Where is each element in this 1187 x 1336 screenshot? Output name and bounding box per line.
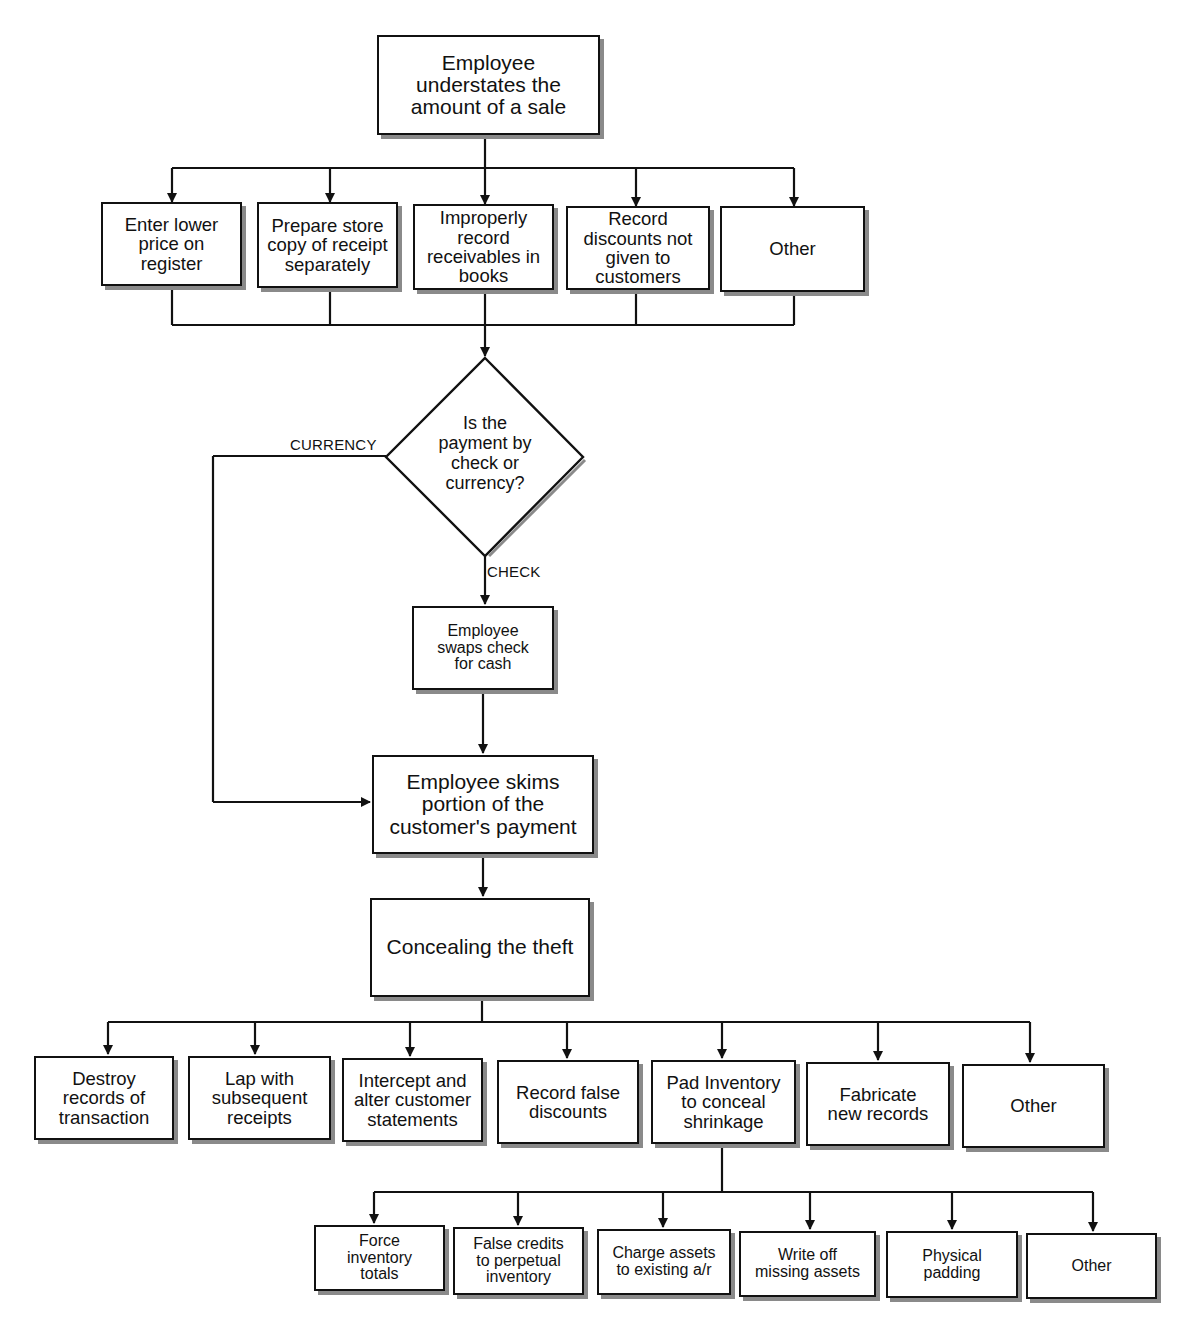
method-label: Prepare store copy of receipt separately [267,216,387,274]
method-label: Improperly record receivables in books [427,208,540,286]
conceal-record-false-discounts: Record false discounts [497,1060,639,1144]
branch-label-check: CHECK [487,563,541,580]
pad-method-label: Write off missing assets [755,1247,860,1281]
conceal-method-label: Other [1010,1096,1056,1115]
skim-label: Employee skims portion of the customer's… [389,771,576,837]
pad-method-label: Force inventory totals [347,1233,412,1283]
conceal-pad-inventory: Pad Inventory to conceal shrinkage [651,1060,796,1144]
pad-charge-assets: Charge assets to existing a/r [597,1229,731,1295]
pad-method-label: Charge assets to existing a/r [612,1245,715,1279]
conceal-other: Other [962,1064,1105,1148]
method-improperly-record-receivables: Improperly record receivables in books [413,204,554,290]
method-label: Enter lower price on register [125,215,219,273]
pad-force-totals: Force inventory totals [314,1225,445,1291]
pad-write-off: Write off missing assets [739,1231,876,1297]
conceal-node: Concealing the theft [370,898,590,997]
pad-method-label: Physical padding [922,1248,982,1282]
pad-method-label: Other [1071,1258,1111,1275]
decision-node-label: Is the payment by check or currency? [415,413,555,494]
branch-label-currency: CURRENCY [290,436,377,453]
conceal-method-label: Fabricate new records [828,1085,929,1124]
method-record-discounts: Record discounts not given to customers [566,206,710,290]
pad-other: Other [1026,1233,1157,1299]
method-label: Record discounts not given to customers [583,209,692,287]
start-node-label: Employee understates the amount of a sal… [411,52,566,118]
pad-method-label: False credits to perpetual inventory [473,1236,564,1286]
conceal-method-label: Record false discounts [516,1083,620,1122]
conceal-label: Concealing the theft [387,936,574,958]
conceal-lap: Lap with subsequent receipts [188,1056,331,1140]
conceal-fabricate-records: Fabricate new records [806,1062,950,1146]
conceal-method-label: Lap with subsequent receipts [212,1069,308,1127]
method-label: Other [769,239,815,258]
conceal-method-label: Pad Inventory to conceal shrinkage [666,1073,780,1131]
swap-check-node: Employee swaps check for cash [412,606,554,690]
conceal-intercept-statements: Intercept and alter customer statements [342,1058,483,1142]
method-other: Other [720,206,865,292]
conceal-method-label: Intercept and alter customer statements [354,1071,471,1129]
pad-physical: Physical padding [886,1231,1018,1298]
start-node: Employee understates the amount of a sal… [377,35,600,135]
method-enter-lower-price: Enter lower price on register [101,202,242,286]
method-prepare-store-copy: Prepare store copy of receipt separately [257,202,398,288]
conceal-method-label: Destroy records of transaction [59,1069,150,1127]
pad-false-credits: False credits to perpetual inventory [453,1227,584,1295]
skim-node: Employee skims portion of the customer's… [372,755,594,854]
conceal-destroy-records: Destroy records of transaction [34,1056,174,1140]
swap-check-label: Employee swaps check for cash [437,623,529,673]
